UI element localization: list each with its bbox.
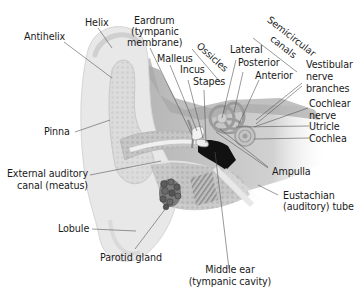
label-cochlea: Cochlea (309, 133, 347, 144)
label-eustachian-line1: Eustachian (283, 190, 335, 201)
label-utricle: Utricle (309, 121, 340, 132)
label-vestibular-line1: Vestibular (306, 59, 353, 70)
label-parotid-gland: Parotid gland (100, 252, 162, 263)
label-ampulla: Ampulla (272, 166, 311, 177)
label-lobule: Lobule (58, 223, 89, 234)
label-vestibular-line2: nerve (306, 71, 333, 82)
label-middle-ear-line1: Middle ear (192, 264, 268, 275)
label-pinna: Pinna (44, 126, 70, 137)
label-anterior: Anterior (255, 70, 293, 81)
label-stapes: Stapes (193, 76, 225, 87)
label-cochlear-nerve-line1: Cochlear (309, 98, 351, 109)
label-middle-ear-line2: (tympanic cavity) (186, 276, 274, 287)
ear-anatomy-diagram: Helix Antihelix Eardrum (tympanic membra… (0, 0, 363, 302)
label-vestibular-line3: branches (306, 83, 349, 94)
label-lateral: Lateral (230, 44, 263, 55)
label-malleus: Malleus (157, 53, 193, 64)
label-posterior: Posterior (238, 57, 280, 68)
label-cochlear-nerve-line2: nerve (309, 110, 336, 121)
label-external-canal-line1: External auditory (4, 168, 88, 179)
label-external-canal-line2: canal (meatus) (4, 180, 88, 191)
label-helix: Helix (85, 17, 109, 28)
label-incus: Incus (180, 64, 205, 75)
label-eardrum-line3: membrane) (127, 37, 182, 48)
label-eardrum-line2: (tympanic (131, 26, 179, 37)
label-eardrum-line1: Eardrum (134, 15, 174, 26)
label-antihelix: Antihelix (24, 31, 65, 42)
label-eustachian-line2: (auditory) tube (283, 201, 354, 212)
